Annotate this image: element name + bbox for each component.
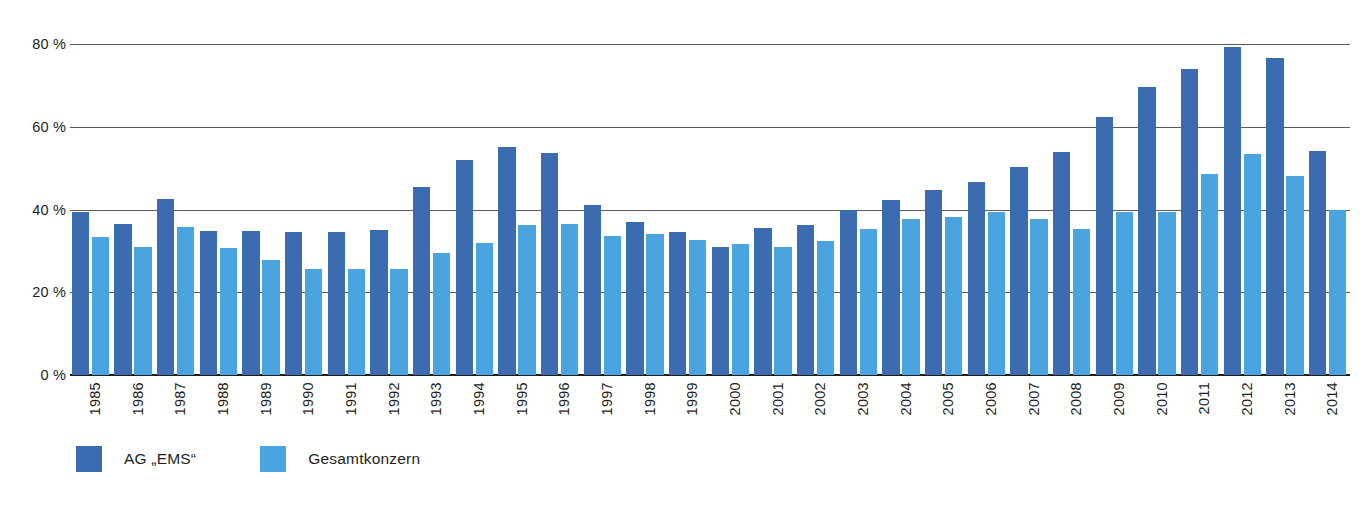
x-axis-tick-label: 2007 — [1026, 382, 1042, 415]
bar-ag-ems — [754, 228, 772, 375]
bar-group — [968, 44, 1006, 375]
x-axis-tick-label: 1988 — [215, 382, 231, 415]
x-axis-tick-label: 2013 — [1282, 382, 1298, 415]
bar-gesamtkonzern — [1201, 174, 1219, 375]
bar-group — [584, 44, 622, 375]
bar-ag-ems — [840, 210, 858, 376]
bar-gesamtkonzern — [1329, 210, 1347, 375]
bar-ag-ems — [584, 205, 602, 375]
bar-ag-ems — [1010, 167, 1028, 375]
bar-group — [498, 44, 536, 375]
bar-ag-ems — [925, 190, 943, 375]
bar-ag-ems — [1138, 87, 1156, 375]
x-axis-tick-label: 1991 — [343, 382, 359, 415]
bar-group — [626, 44, 664, 375]
bar-group — [882, 44, 920, 375]
bar-group — [1266, 44, 1304, 375]
x-axis-tick-label: 1990 — [300, 382, 316, 415]
x-axis-tick-label: 2002 — [812, 382, 828, 415]
x-axis-tick-label: 2010 — [1154, 382, 1170, 415]
bar-ag-ems — [370, 230, 388, 375]
bar-group — [1138, 44, 1176, 375]
legend-swatch-icon — [76, 446, 102, 472]
bar-ag-ems — [882, 200, 900, 375]
bar-group — [669, 44, 707, 375]
bar-group — [114, 44, 152, 375]
bar-gesamtkonzern — [92, 237, 110, 375]
bar-chart: 0 %20 %40 %60 %80 % 19851986198719881989… — [0, 0, 1372, 507]
bar-group — [925, 44, 963, 375]
bar-gesamtkonzern — [433, 253, 451, 375]
bar-ag-ems — [498, 147, 516, 375]
bar-ag-ems — [797, 225, 815, 375]
bar-gesamtkonzern — [1158, 212, 1176, 375]
bar-gesamtkonzern — [1030, 219, 1048, 375]
bar-ag-ems — [1096, 117, 1114, 375]
x-axis-tick-label: 1997 — [599, 382, 615, 415]
bar-ag-ems — [456, 160, 474, 375]
legend-swatch-icon — [260, 446, 286, 472]
bar-ag-ems — [669, 232, 687, 375]
x-axis-tick-label: 1989 — [258, 382, 274, 415]
x-axis-tick-label: 1985 — [87, 382, 103, 415]
y-axis-tick-label: 0 % — [10, 367, 66, 383]
bar-group — [797, 44, 835, 375]
x-axis-tick-label: 1998 — [642, 382, 658, 415]
bar-gesamtkonzern — [1244, 154, 1262, 375]
x-axis-tick-label: 2012 — [1239, 382, 1255, 415]
bar-gesamtkonzern — [988, 212, 1006, 375]
bar-gesamtkonzern — [134, 247, 152, 375]
bar-gesamtkonzern — [262, 260, 280, 375]
x-axis-tick-label: 2009 — [1111, 382, 1127, 415]
bar-gesamtkonzern — [689, 240, 707, 375]
y-axis: 0 %20 %40 %60 %80 % — [0, 0, 66, 507]
x-axis-tick-label: 1999 — [684, 382, 700, 415]
x-axis-tick-label: 2004 — [898, 382, 914, 415]
bar-group — [285, 44, 323, 375]
bar-gesamtkonzern — [945, 217, 963, 375]
bar-group — [200, 44, 238, 375]
bar-group — [157, 44, 195, 375]
bar-group — [1181, 44, 1219, 375]
bar-gesamtkonzern — [305, 269, 323, 375]
bar-gesamtkonzern — [902, 219, 920, 375]
x-axis-tick-label: 1995 — [514, 382, 530, 415]
x-axis-tick-label: 2006 — [983, 382, 999, 415]
x-axis-tick-label: 1992 — [386, 382, 402, 415]
bar-group — [840, 44, 878, 375]
bar-ag-ems — [968, 182, 986, 375]
bar-group — [72, 44, 110, 375]
x-axis-tick-label: 1993 — [428, 382, 444, 415]
bar-ag-ems — [157, 199, 175, 375]
bar-ag-ems — [1053, 152, 1071, 375]
bar-group — [413, 44, 451, 375]
bar-group — [370, 44, 408, 375]
x-axis-tick-label: 2001 — [770, 382, 786, 415]
bar-group — [712, 44, 750, 375]
x-axis-tick-label: 2005 — [940, 382, 956, 415]
bar-gesamtkonzern — [177, 227, 195, 375]
x-axis-tick-label: 2003 — [855, 382, 871, 415]
bar-gesamtkonzern — [518, 225, 536, 375]
bar-group — [541, 44, 579, 375]
chart-legend: AG „EMS“Gesamtkonzern — [76, 446, 420, 472]
legend-label: Gesamtkonzern — [308, 450, 420, 468]
x-axis-tick-label: 1987 — [172, 382, 188, 415]
bar-ag-ems — [712, 247, 730, 375]
x-axis-tick-label: 1986 — [130, 382, 146, 415]
bar-group — [328, 44, 366, 375]
bar-gesamtkonzern — [860, 229, 878, 375]
bar-ag-ems — [1266, 58, 1284, 375]
x-axis-tick-label: 1994 — [471, 382, 487, 415]
bar-group — [1224, 44, 1262, 375]
x-axis-tick-label: 1996 — [556, 382, 572, 415]
bar-gesamtkonzern — [732, 244, 750, 375]
x-axis-tick-label: 2008 — [1068, 382, 1084, 415]
bar-ag-ems — [200, 231, 218, 375]
bar-gesamtkonzern — [1286, 176, 1304, 375]
x-axis-tick-label: 2000 — [727, 382, 743, 415]
x-axis-tick-label: 2011 — [1196, 382, 1212, 414]
y-axis-tick-label: 60 % — [10, 119, 66, 135]
x-axis-tick-label: 2014 — [1324, 382, 1340, 415]
y-axis-tick-label: 20 % — [10, 284, 66, 300]
